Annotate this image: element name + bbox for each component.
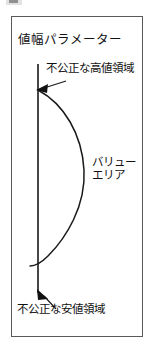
- high-zone-label: 不公正な高値領域: [46, 62, 134, 75]
- figure-title: 値幅パラメーター: [18, 33, 122, 48]
- value-area-label-line1: バリュー: [92, 155, 136, 169]
- low-zone-label: 不公正な安値領域: [17, 303, 105, 316]
- value-area-label: バリューエリア: [92, 156, 140, 183]
- value-area-label-line2: エリア: [92, 169, 140, 182]
- cropped-artifact-mark: [9, 0, 18, 3]
- figure-root: 値幅パラメーター 不公正な高値領域 バリューエリア 不公正な安値領域: [0, 0, 154, 350]
